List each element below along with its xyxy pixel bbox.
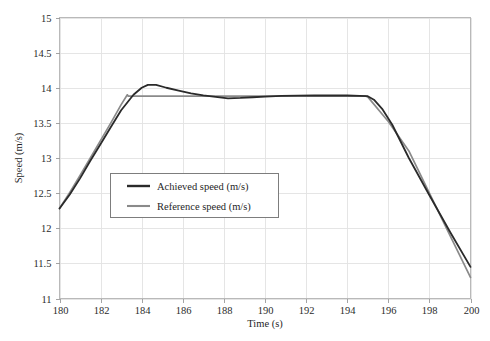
- legend-label-achieved: Achieved speed (m/s): [157, 181, 249, 193]
- x-tick-label: 182: [94, 305, 110, 316]
- x-tick-label: 198: [422, 305, 438, 316]
- y-tick-label: 14.5: [33, 48, 51, 59]
- legend-label-reference: Reference speed (m/s): [157, 201, 251, 213]
- x-tick-label: 196: [381, 305, 397, 316]
- y-tick-label: 11: [41, 294, 51, 305]
- y-tick-label: 15: [41, 13, 52, 24]
- speed-vs-time-chart: 1111.51212.51313.51414.515 1801821841861…: [0, 0, 490, 341]
- x-tick-label: 188: [217, 305, 233, 316]
- chart-svg: 1111.51212.51313.51414.515 1801821841861…: [0, 0, 490, 341]
- x-axis-title: Time (s): [247, 318, 283, 330]
- y-tick-label: 12: [41, 223, 52, 234]
- x-tick-label: 194: [340, 305, 357, 316]
- x-tick-label: 184: [135, 305, 152, 316]
- x-tick-label: 180: [53, 305, 69, 316]
- y-tick-label: 13: [41, 153, 52, 164]
- y-axis-title: Speed (m/s): [13, 132, 25, 183]
- y-tick-label: 13.5: [33, 118, 51, 129]
- y-tick-label: 11.5: [34, 258, 52, 269]
- x-tick-label: 186: [176, 305, 192, 316]
- x-tick-label: 200: [464, 305, 480, 316]
- x-tick-label: 192: [299, 305, 315, 316]
- y-tick-label: 14: [41, 83, 52, 94]
- x-tick-label: 190: [258, 305, 274, 316]
- y-tick-label: 12.5: [33, 188, 51, 199]
- chart-legend: Achieved speed (m/s) Reference speed (m/…: [111, 174, 279, 218]
